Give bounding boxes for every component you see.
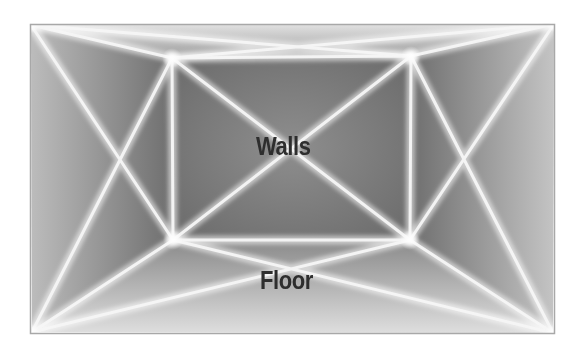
walls-label: Walls — [256, 132, 310, 161]
room-perspective-diagram — [0, 0, 587, 362]
floor-label: Floor — [260, 266, 313, 295]
